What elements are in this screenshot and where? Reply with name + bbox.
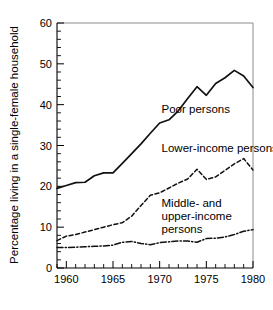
- y-tick-label: 50: [40, 58, 52, 70]
- series-label-2: persons: [162, 223, 203, 235]
- y-tick-label: 30: [40, 140, 52, 152]
- y-axis-tick-labels: 0102030405060: [40, 17, 52, 274]
- series-label-2: Middle- and: [162, 197, 222, 209]
- y-tick-label: 20: [40, 180, 52, 192]
- y-tick-label: 40: [40, 99, 52, 111]
- line-chart: 0102030405060 19601965197019751980 Perce…: [0, 0, 273, 310]
- x-tick-label: 1960: [54, 273, 78, 285]
- x-axis-ticks: [57, 261, 253, 268]
- y-axis-label: Percentage living in a single-female hou…: [8, 26, 20, 264]
- chart-figure: 0102030405060 19601965197019751980 Perce…: [0, 0, 273, 310]
- y-tick-label: 0: [46, 262, 52, 274]
- x-tick-label: 1980: [241, 273, 265, 285]
- y-tick-label: 60: [40, 17, 52, 29]
- y-axis-ticks: [57, 23, 64, 268]
- series-annotations: Poor personsLower-income personsMiddle- …: [162, 103, 273, 235]
- x-tick-label: 1975: [194, 273, 218, 285]
- series-label-1: Lower-income persons: [162, 142, 273, 154]
- x-axis-tick-labels: 19601965197019751980: [54, 273, 265, 285]
- x-tick-label: 1965: [101, 273, 125, 285]
- series-label-0: Poor persons: [162, 103, 231, 115]
- series-label-2: upper-income: [162, 210, 232, 222]
- x-tick-label: 1970: [147, 273, 171, 285]
- series-line-1: [57, 159, 253, 241]
- y-tick-label: 10: [40, 221, 52, 233]
